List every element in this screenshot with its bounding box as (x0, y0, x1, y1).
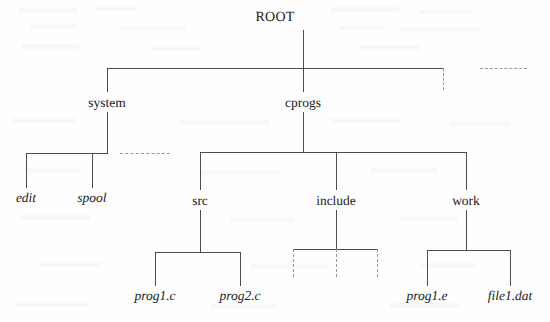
tree-node-include[interactable]: include (316, 194, 356, 208)
work-stem (466, 210, 467, 250)
prog1c-drop (155, 252, 156, 286)
tree-node-spool[interactable]: spool (77, 191, 106, 205)
include-stem (336, 210, 337, 249)
root-bar-continuation (480, 68, 527, 69)
include-child-stub-right (377, 249, 378, 277)
tree-node-system[interactable]: system (88, 96, 126, 110)
cprogs-children-bar (200, 152, 466, 153)
include-child-stub-mid (336, 249, 337, 277)
include-child-stub-left (293, 249, 294, 277)
include-drop (336, 152, 337, 190)
system-bar-continuation (120, 153, 170, 154)
tree-node-prog1c[interactable]: prog1.c (134, 289, 175, 303)
tree-node-prog1e[interactable]: prog1.e (406, 289, 447, 303)
tree-node-src[interactable]: src (192, 194, 208, 208)
paper-texture (0, 0, 550, 322)
tree-node-work[interactable]: work (452, 194, 480, 208)
system-stem (107, 112, 108, 153)
root-children-bar (107, 68, 443, 69)
include-children-bar (293, 249, 377, 250)
tree-node-file1dat[interactable]: file1.dat (488, 289, 533, 303)
edit-drop (26, 153, 27, 188)
tree-node-root[interactable]: ROOT (256, 11, 295, 25)
cprogs-stem (303, 112, 304, 152)
tree-node-prog2c[interactable]: prog2.c (219, 289, 260, 303)
root-extra-child-stub (443, 68, 444, 90)
tree-node-cprogs[interactable]: cprogs (285, 96, 321, 110)
work-children-bar (427, 250, 510, 251)
src-drop (200, 152, 201, 190)
prog2c-drop (240, 252, 241, 286)
prog1e-drop (427, 250, 428, 286)
tree-node-edit[interactable]: edit (16, 191, 36, 205)
directory-tree-diagram: ROOTsystemcprogseditspoolsrcincludeworkp… (0, 0, 550, 322)
src-stem (200, 210, 201, 252)
cprogs-drop (303, 68, 304, 92)
spool-drop (92, 153, 93, 188)
system-children-bar (26, 153, 108, 154)
root-stem (303, 30, 304, 68)
system-drop (107, 68, 108, 92)
file1dat-drop (510, 250, 511, 286)
work-drop (466, 152, 467, 190)
src-children-bar (155, 252, 240, 253)
